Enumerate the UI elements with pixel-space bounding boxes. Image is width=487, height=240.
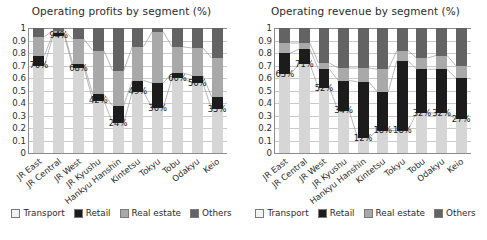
bar-slot: 63% (275, 28, 295, 153)
bar-segment-transport (279, 74, 290, 153)
bar-segment-others (132, 28, 143, 47)
stacked-bar[interactable]: 52% (319, 28, 330, 153)
y-axis-tick: 0 (267, 149, 272, 158)
stacked-bar[interactable]: 42% (93, 28, 104, 153)
legend-item-others[interactable]: Others (190, 208, 232, 218)
bar-data-label: 24% (109, 119, 128, 127)
legend-swatch-retail (74, 209, 83, 218)
x-axis-label-slot: Odakyu (431, 155, 451, 210)
stacked-bar[interactable]: 18% (397, 28, 408, 153)
stacked-bar[interactable]: 27% (456, 28, 467, 153)
bar-segment-others (172, 28, 183, 47)
legend-item-retail[interactable]: Retail (318, 208, 355, 218)
bar-segment-realestate (192, 48, 203, 76)
stacked-bar[interactable]: 34% (338, 28, 349, 153)
legend-swatch-transport (255, 209, 264, 218)
bar-slot: 36% (148, 28, 168, 153)
bar-segment-others (33, 28, 44, 37)
stacked-bar[interactable]: 94% (53, 28, 64, 153)
y-axis-tick: 0.1 (258, 136, 272, 145)
bar-slot: 94% (49, 28, 69, 153)
x-axis-label-slot: Tokyu (392, 155, 412, 210)
bar-data-label: 18% (373, 126, 392, 134)
legend-label: Real estate (376, 208, 425, 218)
bar-segment-realestate (172, 47, 183, 73)
bar-segment-transport (456, 119, 467, 153)
stacked-bar[interactable]: 56% (192, 28, 203, 153)
x-axis-label-slot: Keio (450, 155, 470, 210)
y-axis-tick: 0.6 (12, 74, 26, 83)
bar-segment-others (192, 28, 203, 48)
bar-slot: 49% (128, 28, 148, 153)
legend-swatch-others (434, 209, 443, 218)
legend-item-realestate[interactable]: Real estate (364, 208, 425, 218)
stacked-bar[interactable]: 35% (212, 28, 223, 153)
bar-segment-transport (416, 113, 427, 153)
legend-item-realestate[interactable]: Real estate (120, 208, 181, 218)
bar-segment-retail (416, 69, 427, 113)
bar-segment-others (319, 28, 330, 63)
bar-data-label: 42% (89, 96, 108, 104)
stacked-bar[interactable]: 49% (132, 28, 143, 153)
legend-swatch-transport (11, 209, 20, 218)
stacked-bar[interactable]: 24% (113, 28, 124, 153)
bar-segment-realestate (416, 58, 427, 69)
bar-segment-transport (73, 68, 84, 153)
legend-operating-revenue: TransportRetailReal estateOthers (244, 208, 487, 218)
legend-item-retail[interactable]: Retail (74, 208, 111, 218)
bar-segment-realestate (377, 69, 388, 92)
bar-slot: 27% (451, 28, 471, 153)
legend-swatch-realestate (364, 209, 373, 218)
bar-segment-others (338, 28, 349, 68)
y-axis-tick: 0.7 (12, 61, 26, 70)
plot-area-operating-revenue: 10.90.80.70.60.50.40.30.20.10 63%71%52%3… (274, 28, 471, 154)
bar-segment-others (397, 28, 408, 51)
stacked-bar[interactable]: 12% (358, 28, 369, 153)
bar-segment-others (93, 28, 104, 51)
bar-data-label: 71% (295, 60, 314, 68)
bar-slot: 60% (168, 28, 188, 153)
stacked-bar[interactable]: 60% (172, 28, 183, 153)
bar-segment-transport (53, 36, 64, 154)
bar-slot: 34% (334, 28, 354, 153)
bar-segment-realestate (93, 51, 104, 95)
stacked-bar[interactable]: 36% (152, 28, 163, 153)
bar-segment-transport (299, 64, 310, 153)
stacked-bar[interactable]: 18% (377, 28, 388, 153)
stacked-bar[interactable]: 68% (73, 28, 84, 153)
bar-segment-realestate (436, 56, 447, 70)
legend-label: Retail (330, 208, 355, 218)
bar-slot: 18% (393, 28, 413, 153)
stacked-bar[interactable]: 71% (299, 28, 310, 153)
stacked-bar[interactable]: 32% (416, 28, 427, 153)
stacked-bar[interactable]: 70% (33, 28, 44, 153)
legend-item-transport[interactable]: Transport (255, 208, 308, 218)
y-axis-tick: 0.8 (258, 49, 272, 58)
bar-data-label: 27% (452, 115, 471, 123)
bar-segment-realestate (456, 66, 467, 79)
bars-operating-profits: 70%94%68%42%24%49%36%60%56%35% (29, 28, 227, 153)
bar-segment-realestate (132, 47, 143, 81)
bar-segment-realestate (319, 63, 330, 69)
y-axis-tick: 0.7 (258, 61, 272, 70)
y-axis-tick: 0.3 (12, 111, 26, 120)
y-axis-tick: 1 (21, 24, 26, 33)
bar-slot: 52% (314, 28, 334, 153)
bar-segment-others (279, 28, 290, 43)
stacked-bar[interactable]: 63% (279, 28, 290, 153)
x-axis-label-slot: Kintetsu (372, 155, 392, 210)
bar-segment-transport (93, 101, 104, 154)
stacked-bar[interactable]: 32% (436, 28, 447, 153)
x-axis-labels-operating-profits: JR EastJR CentralJR WestJR KyushuHankyu … (28, 155, 226, 210)
bar-segment-realestate (33, 37, 44, 56)
bar-segment-retail (397, 61, 408, 131)
x-axis-labels-operating-revenue: JR EastJR CentralJR WestJR KyushuHankyu … (274, 155, 470, 210)
legend-label: Others (202, 208, 232, 218)
legend-item-others[interactable]: Others (434, 208, 476, 218)
bar-segment-others (358, 28, 369, 68)
bar-segment-others (113, 28, 124, 71)
bar-data-label: 63% (275, 70, 294, 78)
legend-label: Real estate (132, 208, 181, 218)
legend-label: Transport (23, 208, 64, 218)
legend-item-transport[interactable]: Transport (11, 208, 64, 218)
